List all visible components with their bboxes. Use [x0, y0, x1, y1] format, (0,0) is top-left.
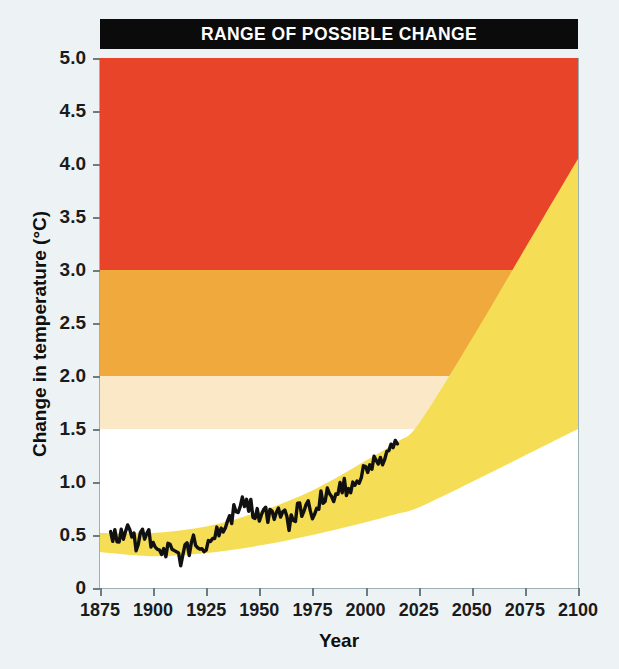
- x-tick-label: 1925: [186, 600, 226, 621]
- chart-title-banner: RANGE OF POSSIBLE CHANGE: [100, 19, 578, 49]
- y-tick: [93, 376, 100, 378]
- x-tick: [100, 588, 102, 596]
- y-tick: [93, 270, 100, 272]
- x-tick-label: 2075: [505, 600, 545, 621]
- x-tick-label: 2025: [399, 600, 439, 621]
- x-tick-label: 1900: [133, 600, 173, 621]
- x-tick-label: 2100: [558, 600, 598, 621]
- x-tick: [153, 588, 155, 596]
- y-tick: [93, 429, 100, 431]
- projection-range-band: [100, 159, 578, 557]
- y-tick-label: 2.0: [60, 365, 86, 387]
- plot-right-border: [578, 58, 579, 589]
- y-tick: [93, 535, 100, 537]
- y-tick: [93, 323, 100, 325]
- y-tick-label: 3.0: [60, 259, 86, 281]
- x-tick: [312, 588, 314, 596]
- x-tick-label: 2000: [346, 600, 386, 621]
- y-tick: [93, 588, 100, 590]
- x-tick-label: 1975: [292, 600, 332, 621]
- y-axis-title: Change in temperature (°C): [29, 134, 51, 534]
- x-tick: [578, 588, 580, 596]
- climate-projection-chart: RANGE OF POSSIBLE CHANGE 00.51.01.52.02.…: [0, 0, 619, 669]
- x-axis-title: Year: [100, 630, 578, 652]
- y-tick-label: 4.0: [60, 153, 86, 175]
- x-axis-spine: [99, 588, 579, 589]
- y-tick: [93, 217, 100, 219]
- y-tick: [93, 58, 100, 60]
- x-tick: [206, 588, 208, 596]
- chart-title-text: RANGE OF POSSIBLE CHANGE: [201, 24, 477, 45]
- x-tick: [259, 588, 261, 596]
- x-tick-label: 1875: [80, 600, 120, 621]
- x-tick: [419, 588, 421, 596]
- y-tick-label: 3.5: [60, 206, 86, 228]
- y-tick-label: 0.5: [60, 524, 86, 546]
- y-tick-label: 1.5: [60, 418, 86, 440]
- x-tick-label: 2050: [452, 600, 492, 621]
- plot-area: [100, 58, 578, 588]
- y-tick: [93, 482, 100, 484]
- x-tick: [472, 588, 474, 596]
- x-tick: [366, 588, 368, 596]
- y-tick-label: 5.0: [60, 47, 86, 69]
- y-tick: [93, 111, 100, 113]
- plot-svg: [100, 58, 578, 588]
- y-tick-label: 1.0: [60, 471, 86, 493]
- x-tick-label: 1950: [239, 600, 279, 621]
- y-tick-label: 4.5: [60, 100, 86, 122]
- y-tick-label: 2.5: [60, 312, 86, 334]
- y-tick-label: 0: [75, 577, 86, 599]
- y-tick: [93, 164, 100, 166]
- x-tick: [525, 588, 527, 596]
